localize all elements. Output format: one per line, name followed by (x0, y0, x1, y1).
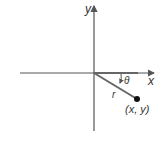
point-marker (134, 96, 140, 102)
x-axis-label: x (147, 74, 155, 88)
angle-arc (120, 74, 121, 83)
radius-ray (94, 73, 137, 99)
point-label: (x, y) (125, 103, 150, 115)
y-axis-label: y (84, 2, 92, 16)
radius-label: r (112, 89, 116, 100)
angle-label: θ (124, 75, 130, 86)
polar-coordinate-diagram: y x θ r (x, y) (0, 0, 163, 142)
